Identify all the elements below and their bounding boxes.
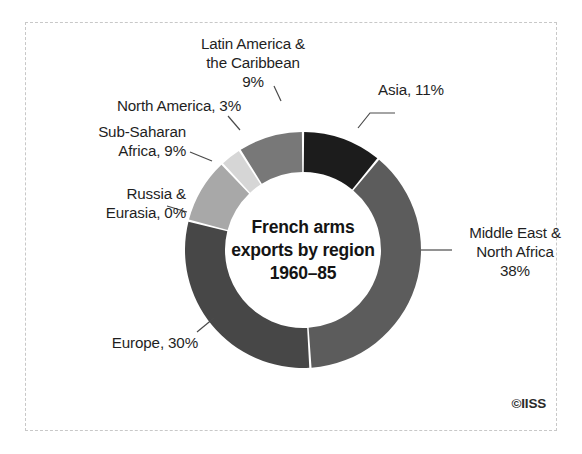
slice-label-north-america: North America, 3% <box>66 96 241 115</box>
donut-chart: French arms exports by region 1960–85 La… <box>0 0 582 454</box>
slice-label-asia: Asia, 11% <box>378 80 528 99</box>
slice-label-europe: Europe, 30% <box>58 333 198 352</box>
copyright-credit: ©IISS <box>466 396 546 411</box>
leader-line-subsaharan <box>190 152 212 161</box>
leader-line-asia <box>358 113 395 128</box>
center-title-line-1: French arms <box>213 216 393 239</box>
slice-label-latin-america: Latin America & the Caribbean 9% <box>163 34 343 91</box>
slice-label-sub-saharan-africa: Sub-Saharan Africa, 9% <box>56 122 186 160</box>
slice-label-russia-eurasia: Russia & Eurasia, 0% <box>46 184 186 222</box>
center-title-line-3: 1960–85 <box>213 262 393 285</box>
leader-line-north-america <box>228 116 240 130</box>
leader-line-europe <box>197 318 214 332</box>
center-title-line-2: exports by region <box>213 239 393 262</box>
chart-center-title: French arms exports by region 1960–85 <box>213 216 393 285</box>
slice-label-middle-east-north-africa: Middle East & North Africa 38% <box>456 223 574 280</box>
